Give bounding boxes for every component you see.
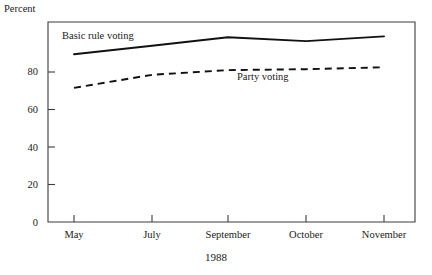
series-line-basic-rule-voting [74,36,384,54]
x-tick-marks [74,215,384,222]
plot-area [0,0,432,275]
y-tick-marks [48,72,55,185]
chart-figure: Percent 80 60 40 20 0 May July September… [0,0,432,275]
series-line-party-voting [74,67,384,88]
